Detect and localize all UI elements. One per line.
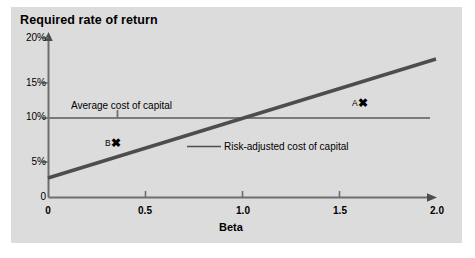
x-axis-arrow-icon xyxy=(427,193,437,202)
x-tick-label-0: 0 xyxy=(28,206,68,216)
y-tick-label-0: 0 xyxy=(12,192,46,202)
chart-figure: Required rate of return 20% 15% 10% 5% 0… xyxy=(0,0,475,258)
data-point-b-marker-icon: ✖ xyxy=(111,136,121,150)
data-point-a: A✖ xyxy=(352,97,368,109)
annotation-average-cost-of-capital: Average cost of capital xyxy=(71,101,172,111)
x-tick-label-1point5: 1.5 xyxy=(320,206,360,216)
x-tick-label-2point0: 2.0 xyxy=(417,206,457,216)
chart-plot-area xyxy=(0,0,475,258)
y-tick-marks xyxy=(42,38,49,162)
data-point-a-marker-icon: ✖ xyxy=(358,96,368,110)
x-tick-label-0point5: 0.5 xyxy=(125,206,165,216)
x-tick-label-1point0: 1.0 xyxy=(223,206,263,216)
y-tick-label-20: 20% xyxy=(12,33,46,43)
data-point-b: B✖ xyxy=(105,137,121,149)
y-tick-label-5: 5% xyxy=(12,157,46,167)
x-axis-title: Beta xyxy=(219,222,243,233)
annotation-risk-adjusted-cost-of-capital: Risk-adjusted cost of capital xyxy=(224,142,349,152)
y-tick-label-15: 15% xyxy=(12,78,46,88)
y-tick-label-10: 10% xyxy=(12,112,46,122)
chart-title: Required rate of return xyxy=(20,14,158,27)
